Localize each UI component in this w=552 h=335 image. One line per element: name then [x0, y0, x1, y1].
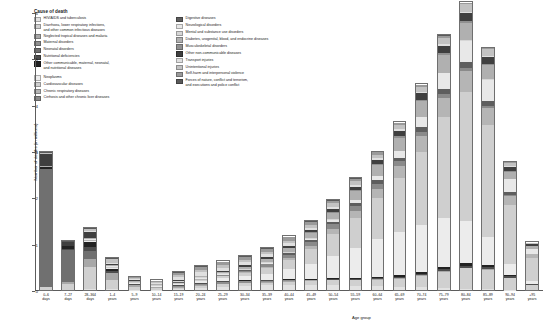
- stacked-bar[interactable]: [503, 161, 517, 291]
- bar-segment[interactable]: [40, 287, 52, 290]
- stacked-bar[interactable]: [260, 247, 274, 291]
- bar-segment[interactable]: [394, 138, 406, 151]
- bar-segment[interactable]: [482, 108, 494, 125]
- bar-segment[interactable]: [416, 276, 428, 287]
- bar-segment[interactable]: [526, 258, 538, 281]
- bar-segment[interactable]: [305, 264, 317, 279]
- bar-segment[interactable]: [372, 189, 384, 198]
- bar-segment[interactable]: [173, 289, 185, 290]
- bar-segment[interactable]: [40, 154, 52, 167]
- bar-segment[interactable]: [504, 278, 516, 290]
- bar-segment[interactable]: [350, 218, 362, 248]
- stacked-bar[interactable]: [61, 240, 75, 291]
- bar-segment[interactable]: [350, 286, 362, 290]
- bar-segment[interactable]: [504, 205, 516, 264]
- bar-segment[interactable]: [106, 280, 118, 290]
- stacked-bar[interactable]: [282, 235, 296, 291]
- bar-segment[interactable]: [482, 65, 494, 79]
- bar-segment[interactable]: [482, 57, 494, 64]
- bar-segment[interactable]: [460, 23, 472, 40]
- bar-segment[interactable]: [195, 288, 207, 290]
- bar-segment[interactable]: [394, 279, 406, 287]
- bar-segment[interactable]: [460, 268, 472, 288]
- bar-segment[interactable]: [394, 232, 406, 275]
- bar-segment[interactable]: [394, 166, 406, 178]
- bar-segment[interactable]: [62, 284, 74, 290]
- stacked-bar[interactable]: [437, 34, 451, 291]
- bar-segment[interactable]: [482, 270, 494, 289]
- bar-segment[interactable]: [84, 259, 96, 267]
- bar-segment[interactable]: [84, 251, 96, 258]
- bar-segment[interactable]: [394, 287, 406, 290]
- bar-segment[interactable]: [372, 165, 384, 176]
- bar-segment[interactable]: [305, 249, 317, 264]
- bar-segment[interactable]: [106, 289, 118, 290]
- stacked-bar[interactable]: [172, 271, 186, 291]
- bar-segment[interactable]: [416, 101, 428, 117]
- stacked-bar[interactable]: [194, 265, 208, 291]
- bar-segment[interactable]: [327, 285, 339, 290]
- bar-segment[interactable]: [460, 71, 472, 92]
- bar-segment[interactable]: [327, 234, 339, 256]
- bar-segment[interactable]: [504, 264, 516, 275]
- bar-segment[interactable]: [327, 213, 339, 220]
- bar-segment[interactable]: [261, 285, 273, 290]
- stacked-bar[interactable]: [371, 151, 385, 291]
- bar-segment[interactable]: [350, 191, 362, 200]
- bar-segment[interactable]: [460, 13, 472, 21]
- bar-segment[interactable]: [504, 196, 516, 205]
- bar-segment[interactable]: [504, 172, 516, 179]
- bar-segment[interactable]: [372, 286, 384, 290]
- bar-segment[interactable]: [416, 136, 428, 152]
- stacked-bar[interactable]: [83, 227, 97, 291]
- bar-segment[interactable]: [416, 117, 428, 127]
- bar-segment[interactable]: [283, 285, 295, 290]
- bar-segment[interactable]: [460, 221, 472, 263]
- bar-segment[interactable]: [438, 117, 450, 218]
- bar-segment[interactable]: [239, 286, 251, 290]
- bar-segment[interactable]: [438, 272, 450, 288]
- stacked-bar[interactable]: [150, 279, 164, 291]
- bar-segment[interactable]: [438, 218, 450, 267]
- bar-segment[interactable]: [504, 179, 516, 192]
- bar-segment[interactable]: [438, 98, 450, 117]
- stacked-bar[interactable]: [326, 199, 340, 291]
- bar-segment[interactable]: [416, 225, 428, 272]
- bar-segment[interactable]: [327, 256, 339, 279]
- bar-segment[interactable]: [438, 73, 450, 89]
- bar-segment[interactable]: [372, 239, 384, 276]
- stacked-bar[interactable]: [39, 151, 53, 291]
- bar-segment[interactable]: [482, 237, 494, 265]
- bar-segment[interactable]: [460, 41, 472, 62]
- bar-segment[interactable]: [438, 288, 450, 290]
- bar-segment[interactable]: [438, 55, 450, 72]
- stacked-bar[interactable]: [481, 47, 495, 291]
- bar-segment[interactable]: [283, 269, 295, 279]
- stacked-bar[interactable]: [128, 276, 142, 291]
- bar-segment[interactable]: [305, 285, 317, 290]
- bar-segment[interactable]: [438, 46, 450, 54]
- stacked-bar[interactable]: [349, 177, 363, 291]
- stacked-bar[interactable]: [105, 257, 119, 291]
- bar-segment[interactable]: [460, 289, 472, 290]
- bar-segment[interactable]: [372, 198, 384, 239]
- bar-segment[interactable]: [460, 92, 472, 221]
- bar-segment[interactable]: [283, 260, 295, 269]
- bar-segment[interactable]: [350, 248, 362, 278]
- stacked-bar[interactable]: [393, 121, 407, 291]
- stacked-bar[interactable]: [238, 255, 252, 291]
- bar-segment[interactable]: [482, 125, 494, 237]
- bar-segment[interactable]: [62, 250, 74, 282]
- bar-segment[interactable]: [526, 285, 538, 290]
- bar-segment[interactable]: [416, 152, 428, 225]
- stacked-bar[interactable]: [459, 1, 473, 291]
- bar-segment[interactable]: [40, 169, 52, 287]
- bar-segment[interactable]: [84, 267, 96, 289]
- bar-segment[interactable]: [84, 289, 96, 290]
- bar-segment[interactable]: [460, 4, 472, 11]
- bar-segment[interactable]: [416, 287, 428, 290]
- stacked-bar[interactable]: [525, 241, 539, 291]
- bar-segment[interactable]: [482, 289, 494, 290]
- stacked-bar[interactable]: [415, 83, 429, 291]
- bar-segment[interactable]: [394, 178, 406, 232]
